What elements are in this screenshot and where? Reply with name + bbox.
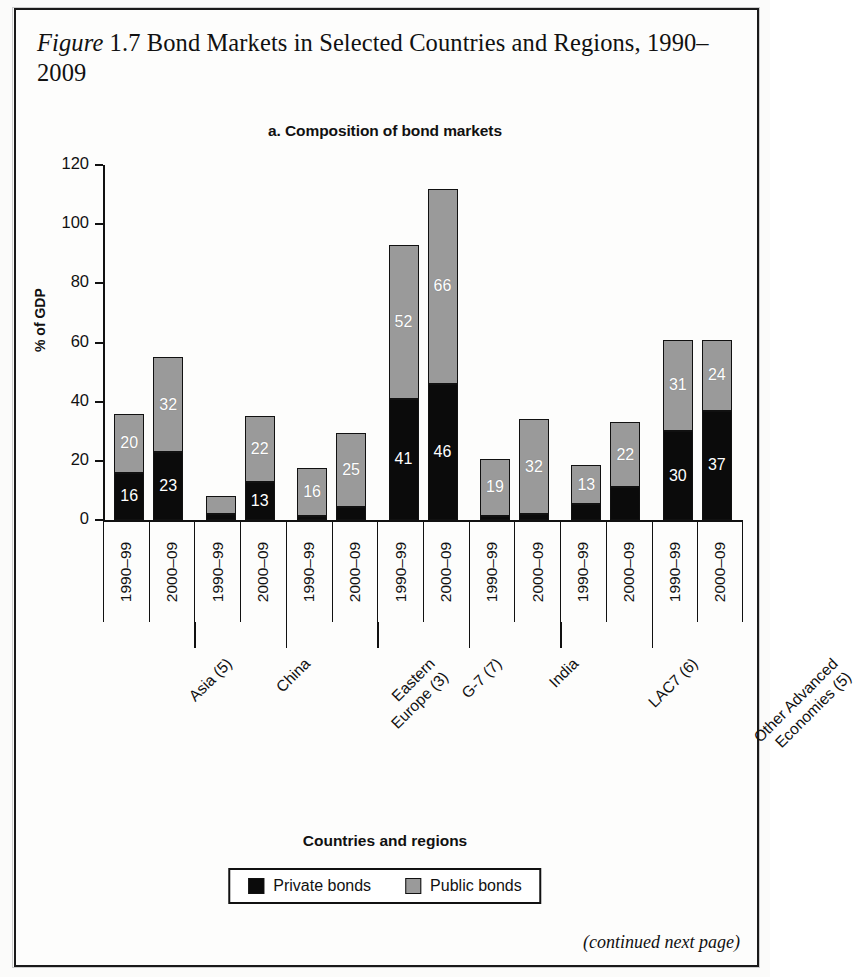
- bar-segment-private: [206, 514, 236, 520]
- bar-value-label: 24: [708, 367, 726, 383]
- bar-segment-private: [571, 504, 601, 520]
- bar-segment-private: 23: [153, 452, 183, 520]
- bar-g-7-7-199099: 4152: [389, 245, 419, 520]
- figure-number: 1.7: [103, 29, 140, 56]
- figure-label-word: Figure: [37, 29, 103, 56]
- bar-segment-public: 52: [389, 245, 419, 399]
- bar-segment-public: 22: [245, 416, 275, 481]
- bar-eastern-europe-3-200009: 25: [336, 433, 366, 520]
- period-tick-row: 1990–992000–091990–992000–091990–992000–…: [103, 522, 743, 622]
- bar-segment-public: 20: [114, 414, 144, 473]
- bar-value-label: 32: [525, 459, 543, 475]
- x-axis-title: Countries and regions: [0, 832, 770, 850]
- figure-title: Figure 1.7 Bond Markets in Selected Coun…: [37, 28, 737, 88]
- bar-lac7-6-199099: 13: [571, 465, 601, 520]
- legend-swatch-public: [405, 878, 421, 894]
- bar-segment-private: [336, 507, 366, 520]
- bar-value-label: 22: [616, 447, 634, 463]
- y-axis-tick-label: 40: [31, 391, 89, 410]
- period-tick-label: 2000–09: [163, 542, 181, 602]
- period-tick-cell: 2000–09: [240, 522, 286, 622]
- period-tick-label: 2000–09: [346, 542, 364, 602]
- bar-value-label: 41: [395, 451, 413, 467]
- group-separator: [652, 622, 654, 648]
- period-tick-label: 2000–09: [711, 542, 729, 602]
- group-label: Asia (5): [184, 654, 235, 705]
- period-tick-label: 2000–09: [254, 542, 272, 602]
- panel-subtitle: a. Composition of bond markets: [0, 122, 770, 140]
- bar-india-199099: 19: [480, 459, 510, 520]
- period-tick-cell: 2000–09: [697, 522, 743, 622]
- period-tick-label: 1990–99: [392, 542, 410, 602]
- y-axis-tick-label: 120: [31, 154, 89, 173]
- bar-china-199099: [206, 496, 236, 520]
- legend-item-public: Public bonds: [405, 877, 522, 895]
- bar-segment-private: 30: [663, 431, 693, 520]
- chart-legend: Private bondsPublic bonds: [228, 868, 541, 904]
- group-label: Other AdvancedEconomies (5): [750, 654, 855, 759]
- bar-value-label: 46: [434, 444, 452, 460]
- y-axis-line: [103, 165, 105, 522]
- bar-india-200009: 32: [519, 419, 549, 520]
- period-tick-label: 1990–99: [300, 542, 318, 602]
- group-separator: [286, 622, 288, 648]
- period-tick-label: 2000–09: [620, 542, 638, 602]
- period-tick-label: 2000–09: [437, 542, 455, 602]
- y-axis-tick: [95, 519, 103, 521]
- bar-lac7-6-200009: 22: [610, 422, 640, 520]
- bar-segment-public: 32: [519, 419, 549, 514]
- period-tick-cell: 1990–99: [469, 522, 515, 622]
- bar-value-label: 30: [669, 468, 687, 484]
- period-tick-label: 1990–99: [574, 542, 592, 602]
- period-tick-cell: 1990–99: [286, 522, 332, 622]
- y-axis-tick: [95, 282, 103, 284]
- period-tick-cell: 2000–09: [606, 522, 652, 622]
- y-axis-tick-label: 0: [31, 509, 89, 528]
- bar-segment-public: 13: [571, 465, 601, 503]
- period-tick-cell: 1990–99: [652, 522, 698, 622]
- bar-value-label: 19: [486, 479, 504, 495]
- y-axis-tick: [95, 164, 103, 166]
- bar-segment-public: 24: [702, 340, 732, 411]
- bar-other-advanced-economies-5-200009: 3724: [702, 340, 732, 520]
- period-tick-cell: 1990–99: [103, 522, 149, 622]
- group-separator: [469, 622, 471, 648]
- bar-value-label: 16: [303, 484, 321, 500]
- bar-segment-private: 16: [114, 473, 144, 520]
- bar-segment-public: 31: [663, 340, 693, 432]
- bar-segment-public: 25: [336, 433, 366, 507]
- period-tick-label: 1990–99: [209, 542, 227, 602]
- legend-swatch-private: [248, 878, 264, 894]
- bar-value-label: 16: [120, 488, 138, 504]
- period-tick-cell: 2000–09: [332, 522, 378, 622]
- bar-segment-public: 22: [610, 422, 640, 487]
- bar-segment-private: [610, 487, 640, 520]
- bar-segment-private: [297, 516, 327, 520]
- bar-asia-5-200009: 2332: [153, 357, 183, 520]
- bar-segment-private: [480, 516, 510, 520]
- group-separator: [560, 622, 562, 648]
- bar-value-label: 66: [434, 278, 452, 294]
- period-tick-cell: 1990–99: [377, 522, 423, 622]
- bar-value-label: 13: [251, 493, 269, 509]
- group-separator: [194, 622, 196, 648]
- bar-other-advanced-economies-5-199099: 3031: [663, 340, 693, 520]
- bar-value-label: 13: [577, 477, 595, 493]
- bar-segment-public: 19: [480, 459, 510, 515]
- bar-segment-public: [206, 496, 236, 514]
- legend-label-public: Public bonds: [430, 877, 522, 895]
- bar-segment-private: 46: [428, 384, 458, 520]
- group-label: LAC7 (6): [644, 654, 701, 711]
- group-label: EasternEurope (3): [373, 654, 452, 733]
- bar-g-7-7-200009: 4666: [428, 189, 458, 520]
- y-axis-tick-label: 60: [31, 332, 89, 351]
- period-tick-cell: 1990–99: [194, 522, 240, 622]
- y-axis-tick: [95, 223, 103, 225]
- bar-segment-private: 13: [245, 482, 275, 520]
- bar-value-label: 52: [395, 314, 413, 330]
- bar-value-label: 31: [669, 377, 687, 393]
- period-tick-label: 1990–99: [483, 542, 501, 602]
- bar-value-label: 25: [342, 462, 360, 478]
- group-label: India: [544, 654, 581, 691]
